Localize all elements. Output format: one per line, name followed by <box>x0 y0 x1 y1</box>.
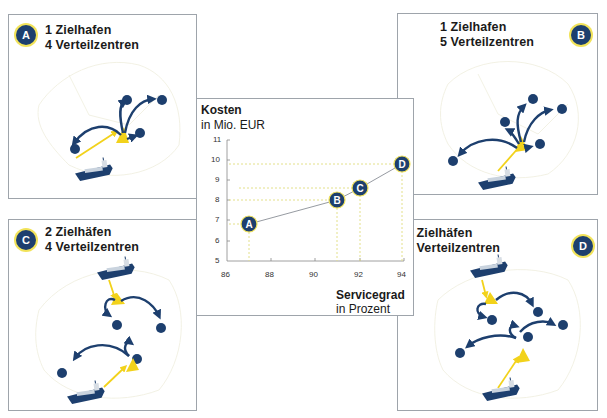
data-point-d: D <box>394 156 410 172</box>
distribution-network-b <box>398 14 599 196</box>
data-point-a: A <box>241 216 257 232</box>
scenario-panel-d: D 2 Zielhäfen 5 Verteilzentren <box>397 219 598 411</box>
scenario-panel-b: B 1 Zielhafen 5 Verteilzentren <box>397 13 598 195</box>
x-tick: 92 <box>354 270 363 279</box>
x-tick: 88 <box>265 270 274 279</box>
svg-text:C: C <box>356 183 363 194</box>
scenario-panel-c: C 2 Zielhäfen 4 Verteilzentren <box>8 219 197 411</box>
x-axis-title: Servicegrad <box>336 288 405 302</box>
y-tick: 6 <box>215 236 219 245</box>
x-tick: 90 <box>309 270 318 279</box>
distribution-network-a <box>9 15 198 200</box>
cost-service-chart: Kosten in Mio. EUR A <box>196 98 414 316</box>
x-tick: 86 <box>221 270 230 279</box>
data-point-c: C <box>352 180 368 196</box>
y-tick: 11 <box>213 135 221 144</box>
scenario-panel-a: A 1 Zielhafen 4 Verteilzentren <box>8 14 197 199</box>
svg-text:B: B <box>333 195 340 206</box>
y-tick: 10 <box>211 155 220 164</box>
y-tick: 7 <box>215 215 219 224</box>
y-tick: 9 <box>215 175 219 184</box>
svg-text:D: D <box>398 159 405 170</box>
chart-plot: A B C D <box>197 99 415 289</box>
x-tick: 94 <box>397 270 406 279</box>
data-point-b: B <box>329 192 345 208</box>
x-axis-unit: in Prozent <box>336 302 390 316</box>
distribution-network-d <box>398 220 599 412</box>
y-tick: 8 <box>215 195 219 204</box>
y-tick: 5 <box>215 256 219 265</box>
distribution-network-c <box>9 220 198 412</box>
svg-text:A: A <box>245 219 252 230</box>
